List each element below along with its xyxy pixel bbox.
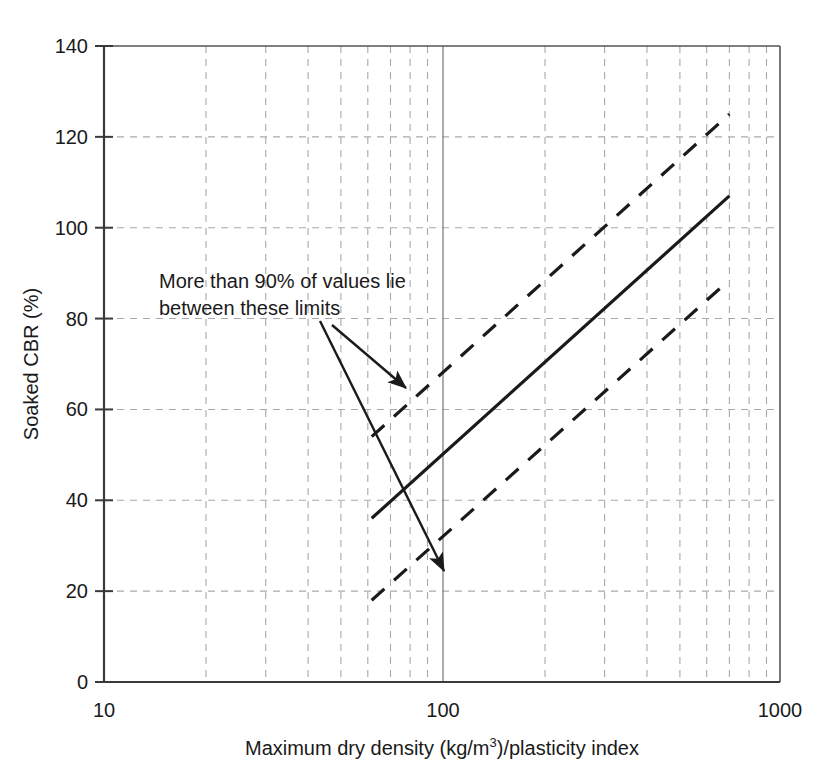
x-tick-label-1000: 1000: [758, 699, 803, 721]
y-tick-label-60: 60: [66, 398, 88, 420]
y-tick-label-140: 140: [55, 35, 88, 57]
x-axis-title-before: Maximum dry density (kg/m: [245, 737, 490, 759]
x-axis-title-after: )/plasticity index: [497, 737, 639, 759]
x-axis-title-superscript: 3: [489, 735, 496, 750]
y-tick-label-40: 40: [66, 489, 88, 511]
y-tick-label-20: 20: [66, 580, 88, 602]
y-tick-labels: 140 120 100 80 60 40 20 0: [55, 35, 88, 693]
x-tick-label-100: 100: [426, 699, 459, 721]
y-tick-label-100: 100: [55, 217, 88, 239]
x-tick-label-10: 10: [93, 699, 115, 721]
annotation-line-1: More than 90% of values lie: [159, 270, 406, 292]
x-axis-title: Maximum dry density (kg/m3)/plasticity i…: [245, 735, 639, 759]
y-tick-label-0: 0: [77, 671, 88, 693]
y-tick-label-120: 120: [55, 126, 88, 148]
chart-figure: 140 120 100 80 60 40 20 0 10 100 1000: [0, 0, 836, 781]
chart-canvas: 140 120 100 80 60 40 20 0 10 100 1000: [0, 0, 836, 781]
y-axis-title: Soaked CBR (%): [20, 288, 42, 440]
x-tick-labels: 10 100 1000: [93, 699, 802, 721]
plot-area-background: [104, 46, 780, 682]
y-tick-label-80: 80: [66, 308, 88, 330]
annotation-line-2: between these limits: [159, 297, 340, 319]
